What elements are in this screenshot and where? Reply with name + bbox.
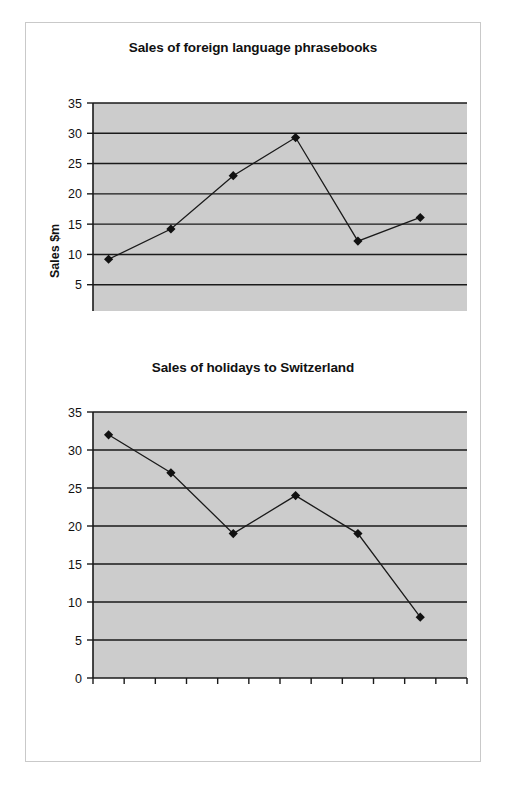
chart-title: Sales of foreign language phrasebooks: [0, 40, 506, 56]
y-tick-label: 0: [75, 672, 82, 686]
y-tick-label: 30: [68, 444, 82, 458]
y-tick-label: 20: [68, 187, 82, 201]
y-tick-label: 15: [68, 558, 82, 572]
chart-phrasebooks: Sales of foreign language phrasebooks Sa…: [0, 40, 506, 311]
y-tick-label: 5: [75, 278, 82, 292]
chart-title: Sales of holidays to Switzerland: [0, 360, 506, 376]
y-tick-label: 20: [68, 520, 82, 534]
y-tick-label: 35: [68, 97, 82, 111]
y-tick-label: 30: [68, 127, 82, 141]
y-tick-label: 25: [68, 482, 82, 496]
plot-area-wrapper: Sales $m 05101520253035JanMarMayJulSepNo…: [0, 56, 506, 311]
y-tick-label: 10: [68, 596, 82, 610]
y-tick-label: 25: [68, 157, 82, 171]
chart-switzerland: Sales of holidays to Switzerland Sales $…: [0, 360, 506, 686]
y-tick-label: 15: [68, 218, 82, 232]
line-chart-svg: 05101520253035JanMarMayJulSepNov: [0, 376, 506, 686]
y-tick-label: 10: [68, 248, 82, 262]
y-tick-label: 35: [68, 406, 82, 420]
plot-background: [93, 412, 467, 678]
plot-area-wrapper: Sales $m 05101520253035JanMarMayJulSepNo…: [0, 376, 506, 686]
line-chart-svg: 05101520253035JanMarMayJulSepNov: [0, 56, 506, 311]
plot-background: [93, 103, 467, 311]
y-tick-label: 5: [75, 634, 82, 648]
y-tick-label: 0: [75, 309, 82, 312]
